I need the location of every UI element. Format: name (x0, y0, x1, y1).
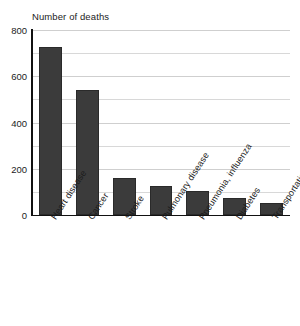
x-axis-category-labels: Heart diseaseCancerStrokePulmonary disea… (32, 216, 290, 326)
chart-figure: Number of deaths 0200400600800 Heart dis… (0, 0, 300, 326)
y-axis-line (31, 29, 33, 216)
y-axis-tick-label: 800 (11, 25, 27, 36)
y-axis-tick-labels: 0200400600800 (0, 30, 27, 215)
y-axis-tick-label: 200 (11, 163, 27, 174)
bar (39, 47, 62, 215)
y-axis-tick-label: 0 (22, 210, 27, 221)
y-axis-tick-label: 400 (11, 117, 27, 128)
chart-title: Number of deaths (32, 11, 109, 22)
y-axis-tick-label: 600 (11, 71, 27, 82)
bar (76, 90, 99, 215)
